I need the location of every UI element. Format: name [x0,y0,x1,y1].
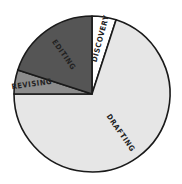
pie-slices [14,16,170,172]
pie-chart: DISCOVERYDRAFTINGREVISINGEDITING [0,0,182,184]
